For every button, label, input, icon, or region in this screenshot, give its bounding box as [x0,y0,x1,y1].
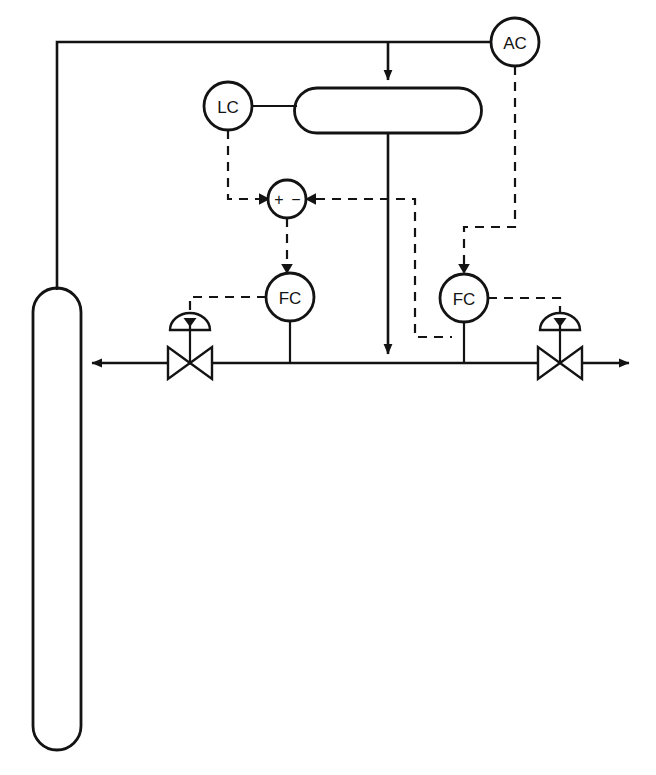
signal-fc-left-to-valve [190,297,266,312]
flow-controller-reflux-bubble[interactable]: FC [266,273,314,321]
summer-minus-sign: − [291,191,300,208]
flow-controller-distillate-bubble[interactable]: FC [440,274,488,322]
analyzer-controller-tag: AC [503,34,527,53]
caption-fragment [0,761,656,775]
flow-controller-reflux-tag: FC [279,289,302,308]
pid-diagram-root: AC LC + − FC FC [0,0,656,775]
pid-canvas: AC LC + − FC FC [0,0,656,775]
reflux-control-valve[interactable] [168,313,212,379]
distillation-column [33,288,81,750]
summer-plus-sign: + [274,191,283,208]
level-controller-bubble[interactable]: LC [204,82,252,130]
flow-controller-distillate-tag: FC [453,290,476,309]
signal-flow-to-summer [305,193,452,337]
signal-lc-to-summer [228,130,270,205]
reflux-drum [295,88,482,133]
analyzer-sample-line [57,42,491,290]
distillate-control-valve[interactable] [538,313,582,379]
signal-summer-to-fc-left [281,218,293,274]
level-controller-tag: LC [217,98,239,117]
summing-junction-bubble[interactable]: + − [268,180,306,218]
signal-fc-right-to-valve [488,298,560,312]
analyzer-controller-bubble[interactable]: AC [491,18,539,66]
